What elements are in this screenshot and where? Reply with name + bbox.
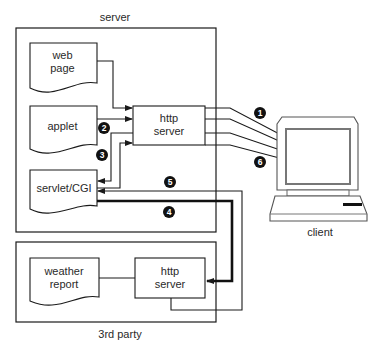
servlet-label: servlet/CGI: [32, 182, 96, 195]
third-party-http-label: http server: [141, 265, 199, 291]
step-1-badge: 1: [254, 107, 266, 119]
step-3-badge: 3: [96, 149, 108, 161]
step-4-badge: 4: [163, 206, 175, 218]
applet-label: applet: [35, 120, 90, 133]
weather-report-label: weather report: [33, 265, 95, 291]
step-2-badge: 2: [98, 122, 110, 134]
web-page-label: web page: [35, 49, 90, 75]
server-http-label: http server: [140, 112, 198, 138]
client-computer-icon: [270, 117, 367, 221]
step-6-badge: 6: [254, 156, 266, 168]
step-5-badge: 5: [164, 176, 176, 188]
client-label: client: [295, 226, 345, 239]
web-page-arrow: [97, 61, 132, 108]
web-architecture-diagram: server 3rd party client web page applet …: [0, 0, 380, 355]
third-party-group-label: 3rd party: [90, 328, 150, 341]
server-group-label: server: [90, 11, 140, 24]
